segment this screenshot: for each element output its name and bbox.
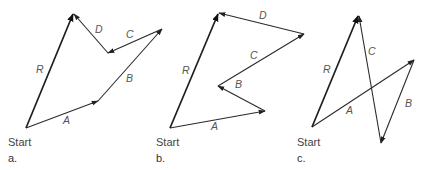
label-b-r: R xyxy=(182,64,190,76)
label-a-c: C xyxy=(126,28,134,40)
label-b-a: A xyxy=(210,120,218,132)
start-label-b: Start xyxy=(156,136,179,148)
panel-label-b: b. xyxy=(156,152,165,164)
label-b-b: B xyxy=(235,78,242,90)
figure-a: A B C D R Start a. xyxy=(8,14,162,164)
label-c-c: C xyxy=(368,45,376,57)
label-b-c: C xyxy=(250,49,258,61)
label-c-r: R xyxy=(323,63,331,75)
label-a-b: B xyxy=(126,72,133,84)
label-a-a: A xyxy=(62,114,70,126)
panel-label-c: c. xyxy=(297,152,306,164)
vector-a-d xyxy=(74,14,108,53)
label-c-a: A xyxy=(345,104,353,116)
vector-addition-diagram: A B C D R Start a. A B C D R Start b. A … xyxy=(0,0,426,170)
vector-a-c xyxy=(108,29,162,53)
vector-b-c xyxy=(218,34,304,86)
vector-a-r xyxy=(26,14,73,128)
vector-a-a xyxy=(26,101,98,128)
vector-b-r xyxy=(170,14,218,128)
start-label-a: Start xyxy=(8,136,31,148)
label-c-b: B xyxy=(405,97,412,109)
label-a-d: D xyxy=(95,23,103,35)
label-a-r: R xyxy=(36,63,44,75)
figure-b: A B C D R Start b. xyxy=(156,9,304,164)
panel-label-a: a. xyxy=(8,152,17,164)
figure-c: A B C R Start c. xyxy=(297,16,414,164)
vector-c-c xyxy=(359,16,381,143)
start-label-c: Start xyxy=(297,136,320,148)
label-b-d: D xyxy=(259,9,267,21)
